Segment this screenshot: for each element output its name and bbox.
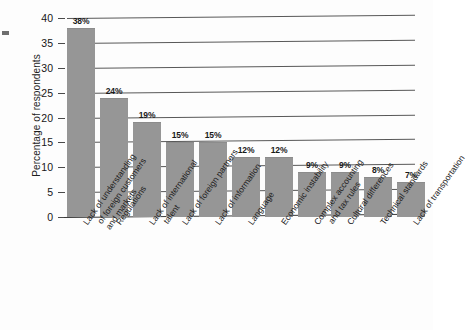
y-tick-mark bbox=[58, 142, 65, 143]
y-tick-mark bbox=[58, 43, 65, 44]
y-tick-label: 5 bbox=[33, 187, 53, 197]
y-tick-mark bbox=[58, 192, 65, 193]
y-tick-label: 20 bbox=[33, 113, 53, 123]
y-tick-label: 0 bbox=[33, 212, 53, 222]
y-tick-mark bbox=[58, 167, 65, 168]
y-tick-label: 25 bbox=[33, 88, 53, 98]
y-tick-mark bbox=[58, 118, 65, 119]
bar bbox=[67, 28, 95, 217]
bar-value-label: 15% bbox=[172, 130, 189, 140]
y-tick-label: 35 bbox=[33, 38, 53, 48]
scan-artifact-mark bbox=[2, 31, 9, 35]
x-axis-labels: Lack of understandingof foreign customer… bbox=[67, 219, 427, 329]
bar-value-label: 19% bbox=[139, 110, 156, 120]
bar-value-label: 12% bbox=[238, 145, 255, 155]
y-tick-label: 10 bbox=[33, 162, 53, 172]
y-tick-mark bbox=[58, 18, 65, 19]
y-tick-mark bbox=[58, 93, 65, 94]
bar-value-label: 12% bbox=[271, 145, 288, 155]
bar-slot: 38% bbox=[67, 18, 95, 217]
bar-slot: 12% bbox=[265, 18, 293, 217]
bar-value-label: 15% bbox=[205, 130, 222, 140]
y-tick-mark bbox=[58, 68, 65, 69]
bar-value-label: 24% bbox=[106, 86, 123, 96]
bar-value-label: 38% bbox=[73, 16, 90, 26]
y-tick-label: 30 bbox=[33, 63, 53, 73]
y-tick-label: 15 bbox=[33, 137, 53, 147]
y-tick-label: 40 bbox=[33, 13, 53, 23]
